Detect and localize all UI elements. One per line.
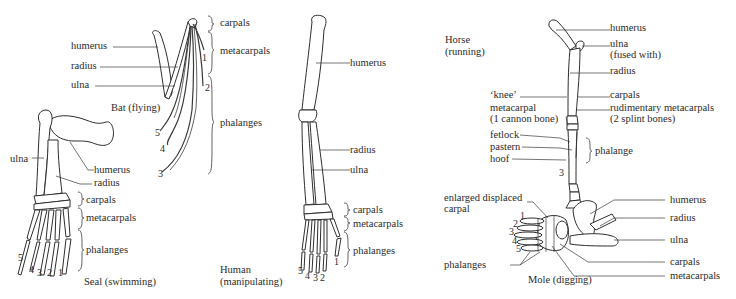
mole-phalanges-label: phalanges (444, 259, 486, 270)
seal-metacarpals-label: metacarpals (86, 212, 136, 223)
horse-radius-label: radius (610, 65, 636, 76)
human-digit-4: 4 (305, 271, 310, 281)
human-metacarpals-label: metacarpals (353, 218, 403, 229)
bat-digit-2: 2 (205, 83, 210, 93)
bat-radius-label: radius (71, 60, 97, 71)
horse-metacarpal-label: metacarpal (490, 102, 536, 113)
bat-wing-bones (95, 16, 214, 174)
human-digit-2: 2 (320, 273, 325, 283)
horse-ulna-label: ulna (610, 38, 628, 49)
horse-rudimentary-note: (2 splint bones) (610, 113, 675, 124)
bat-caption: Bat (flying) (111, 102, 160, 114)
bat-phalanges-label: phalanges (220, 117, 262, 128)
horse-ulna-note: (fused with) (610, 49, 661, 60)
horse-carpals-label: carpals (610, 89, 640, 100)
horse-metacarpal-note: (1 cannon bone) (490, 113, 558, 124)
horse-caption-line1: Horse (445, 34, 470, 46)
human-arm-bones (299, 15, 350, 273)
seal-phalanges-label: phalanges (86, 244, 128, 255)
bat-humerus-label: humerus (71, 40, 107, 51)
horse-pastern-label: pastern (490, 141, 520, 152)
horse-rudimentary-label: rudimentary metacarpals (610, 102, 714, 113)
seal-carpals-label: carpals (86, 194, 116, 205)
horse-caption-line2: (running) (445, 46, 485, 58)
seal-humerus-label: humerus (94, 164, 130, 175)
mole-humerus-label: humerus (670, 194, 706, 205)
horse-humerus-label: humerus (610, 22, 646, 33)
mole-caption: Mole (digging) (528, 274, 592, 286)
mole-metacarpals-label: metacarpals (670, 270, 720, 281)
seal-caption: Seal (swimming) (84, 276, 156, 288)
bat-digit-3: 3 (158, 169, 163, 179)
seal-radius-label: radius (94, 177, 120, 188)
human-digit-5: 5 (298, 266, 303, 276)
human-digit-3: 3 (313, 273, 318, 283)
bat-ulna-label: ulna (71, 79, 89, 90)
human-phalanges-label: phalanges (353, 245, 395, 256)
bat-carpals-label: carpals (220, 17, 250, 28)
seal-ulna-label: ulna (10, 153, 28, 164)
horse-phalange-label: phalange (595, 145, 633, 156)
human-caption-line1: Human (220, 264, 251, 276)
bat-digit-1: 1 (202, 53, 207, 63)
mole-enlarged-carpal-line1: enlarged displaced (444, 192, 522, 203)
horse-fetlock-label: fetlock (490, 129, 519, 140)
human-digit-1: 1 (334, 257, 339, 267)
human-humerus-label: humerus (350, 57, 386, 68)
horse-knee-label: ‘knee’ (490, 89, 517, 100)
seal-digit-5: 5 (18, 253, 23, 263)
human-radius-label: radius (350, 144, 376, 155)
seal-digit-1: 1 (58, 268, 63, 278)
horse-digit-3: 3 (559, 168, 564, 178)
mole-carpals-label: carpals (670, 256, 700, 267)
mole-ulna-label: ulna (670, 234, 688, 245)
mole-digit-5: 5 (516, 244, 521, 254)
seal-digit-3: 3 (37, 268, 42, 278)
seal-digit-4: 4 (29, 265, 34, 275)
bat-digit-4: 4 (160, 144, 165, 154)
mole-enlarged-carpal-line2: carpal (444, 203, 470, 214)
human-ulna-label: ulna (350, 164, 368, 175)
human-carpals-label: carpals (353, 204, 383, 215)
mole-digit-1: 1 (520, 211, 525, 221)
bat-metacarpals-label: metacarpals (220, 45, 270, 56)
seal-digit-2: 2 (47, 268, 52, 278)
mole-radius-label: radius (670, 212, 696, 223)
horse-hoof-label: hoof (490, 153, 509, 164)
bat-digit-5: 5 (155, 128, 160, 138)
human-caption-line2: (manipulating) (220, 276, 282, 288)
mole-forelimb-bones (510, 200, 665, 276)
